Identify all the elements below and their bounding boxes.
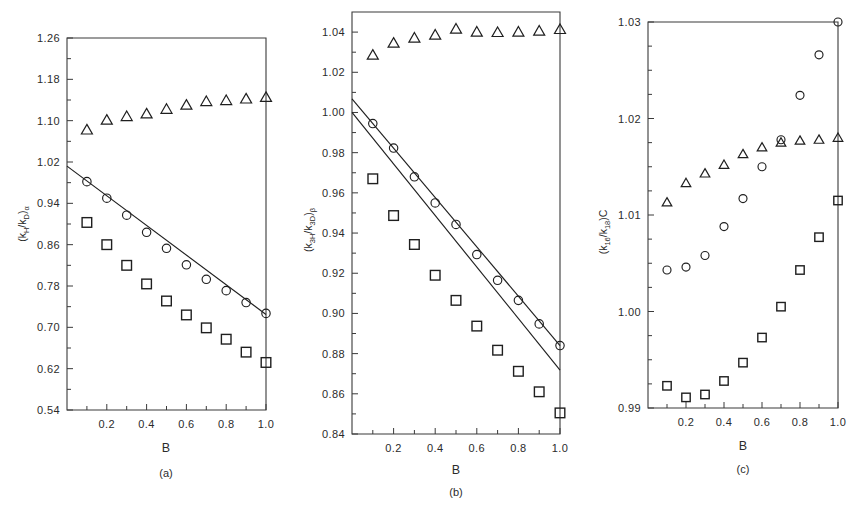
panel-a-marker-circle	[162, 244, 170, 252]
panel-b-ytick-label: 0.90	[322, 307, 345, 319]
panel-a-marker-triangle	[181, 100, 192, 110]
panel-c-marker-circle	[682, 263, 690, 271]
panel-c-marker-square	[663, 382, 671, 390]
panel-c-ytick-label: 0.99	[618, 402, 641, 414]
panel-c-xtick-label: 0.6	[754, 416, 771, 428]
panel-c-marker-circle	[720, 223, 728, 231]
panel-a: 0.540.620.700.780.860.941.021.101.181.26…	[0, 0, 300, 500]
panel-a-xlabel: B	[162, 441, 170, 455]
panel-b-ytick-label: 0.96	[322, 187, 345, 199]
panel-b-marker-triangle	[409, 33, 420, 43]
panel-c-marker-square	[758, 333, 766, 341]
panel-c-axis-frame	[648, 22, 838, 408]
panel-b-marker-square	[514, 367, 524, 377]
panel-b-x-tick-labels: 0.20.40.60.81.0	[385, 442, 568, 454]
panel-b-marker-square	[472, 321, 482, 331]
panel-a-ytick-label: 0.94	[37, 197, 60, 209]
panel-c-marker-circle	[796, 91, 804, 99]
panel-a-plot-area: 0.540.620.700.780.860.941.021.101.181.26…	[37, 32, 274, 430]
panel-c-xtick-label: 0.8	[792, 416, 809, 428]
panel-b-xtick-label: 0.6	[469, 442, 486, 454]
panel-c-marker-triangle	[795, 136, 805, 144]
panel-b-marker-square	[493, 345, 503, 355]
svg-text:(kH/kD)α: (kH/kD)α	[16, 206, 31, 242]
panel-b-marker-circle	[493, 276, 501, 284]
panel-a-marker-square	[221, 334, 231, 344]
panel-b-upper-fit-line	[352, 99, 560, 346]
panel-b-xlabel: B	[452, 463, 460, 477]
panel-c-caption: (c)	[737, 463, 750, 475]
panel-b-data-markers	[367, 24, 565, 418]
panel-c-x-tick-labels: 0.20.40.60.81.0	[678, 416, 847, 428]
panel-a-x-tick-labels: 0.20.40.60.81.0	[99, 418, 275, 430]
panel-b-lower-fit-line	[352, 112, 560, 370]
panel-a-xtick-label: 0.4	[138, 418, 155, 430]
panel-b-marker-triangle	[451, 24, 462, 34]
panel-a-marker-triangle	[101, 115, 112, 125]
panel-c-marker-triangle	[662, 198, 672, 206]
panel-a-y-tick-labels: 0.540.620.700.780.860.941.021.101.181.26	[37, 32, 60, 416]
panel-c-plot-area: 0.991.001.011.021.03 0.20.40.60.81.0	[618, 16, 846, 428]
panel-b-ytick-label: 1.02	[322, 66, 345, 78]
panel-c-data-markers	[662, 18, 843, 402]
panel-b-xtick-label: 0.4	[427, 442, 444, 454]
panel-c-marker-triangle	[700, 169, 710, 177]
panel-a-xtick-label: 1.0	[258, 418, 275, 430]
panel-b-ytick-label: 0.84	[322, 428, 345, 440]
panel-c-marker-triangle	[757, 143, 767, 151]
panel-c-marker-square	[682, 393, 690, 401]
panel-c-marker-circle	[758, 163, 766, 171]
panel-a-marker-triangle	[241, 93, 252, 103]
panel-b-ytick-label: 0.92	[322, 267, 345, 279]
panel-c-ytick-label: 1.00	[618, 306, 641, 318]
panel-a-fit-lines	[67, 166, 266, 314]
panel-a-caption: (a)	[159, 467, 172, 479]
panel-b-marker-triangle	[367, 50, 378, 60]
panel-a-marker-square	[82, 218, 92, 228]
panel-a-marker-square	[102, 240, 112, 250]
panel-c-marker-triangle	[814, 135, 824, 143]
panel-b-ytick-label: 0.88	[322, 348, 345, 360]
panel-b-marker-triangle	[492, 27, 503, 37]
panel-c-xtick-label: 1.0	[830, 416, 847, 428]
panel-c-marker-triangle	[738, 149, 748, 157]
svg-text:(k3H/k3D)β: (k3H/k3D)β	[302, 207, 317, 252]
figure-root: 0.540.620.700.780.860.941.021.101.181.26…	[0, 0, 864, 507]
panel-a-data-markers	[81, 92, 271, 367]
panel-a-marker-circle	[142, 228, 150, 236]
panel-a-marker-circle	[123, 211, 131, 219]
panel-a-ticks	[67, 38, 266, 410]
panel-b-y-tick-labels: 0.840.860.880.900.920.940.960.981.001.02…	[322, 26, 345, 440]
panel-b-marker-square	[451, 296, 461, 306]
panel-a-ytick-label: 0.78	[37, 280, 60, 292]
panel-c-marker-circle	[815, 51, 823, 59]
panel-a-marker-triangle	[221, 95, 232, 105]
panel-c-y-tick-labels: 0.991.001.011.021.03	[618, 16, 641, 414]
panel-a-svg: 0.540.620.700.780.860.941.021.101.181.26…	[0, 0, 300, 500]
panel-a-ytick-label: 1.10	[37, 115, 60, 127]
panel-c-marker-circle	[739, 195, 747, 203]
panel-a-marker-circle	[202, 275, 210, 283]
panel-c-ytick-label: 1.03	[618, 16, 641, 28]
panel-b-ylabel-subscript: β	[308, 207, 317, 212]
panel-c-svg: 0.991.001.011.021.03 0.20.40.60.81.0 B (…	[580, 0, 864, 500]
panel-c-marker-triangle	[681, 178, 691, 186]
panel-a-marker-triangle	[141, 108, 152, 118]
panel-b: 0.840.860.880.900.920.940.960.981.001.02…	[292, 0, 582, 500]
panel-a-ylabel-subscript: α	[22, 206, 31, 211]
panel-b-marker-square	[410, 240, 420, 250]
panel-c-ylabel-subscript: C	[597, 209, 609, 217]
panel-b-marker-square	[534, 387, 544, 397]
panel-a-marker-square	[241, 347, 251, 357]
panel-b-ytick-label: 1.00	[322, 106, 345, 118]
panel-a-ytick-label: 1.18	[37, 73, 60, 85]
panel-b-xtick-label: 1.0	[552, 442, 569, 454]
panel-a-marker-triangle	[121, 111, 132, 121]
panel-c-ylabel-sub2: 18	[603, 221, 612, 229]
panel-b-marker-triangle	[430, 30, 441, 40]
panel-a-marker-triangle	[81, 124, 92, 134]
panel-b-xtick-label: 0.2	[385, 442, 402, 454]
panel-c-marker-square	[777, 302, 785, 310]
panel-b-marker-circle	[473, 250, 481, 258]
panel-a-ytick-label: 0.62	[37, 363, 60, 375]
